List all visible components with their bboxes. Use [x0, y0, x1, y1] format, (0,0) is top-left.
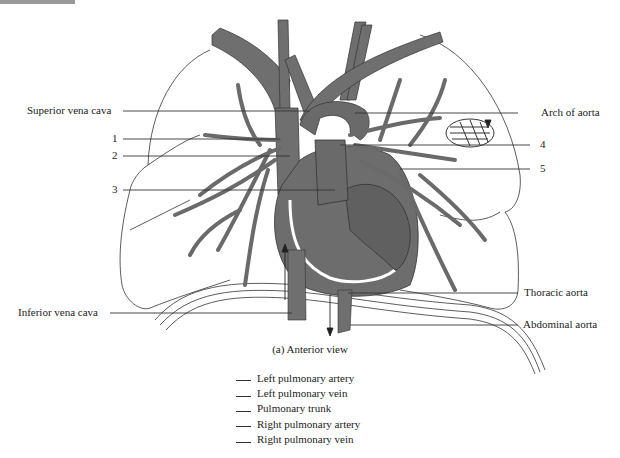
label-number-5: 5	[540, 162, 546, 175]
legend-item: Right pulmonary vein	[236, 432, 360, 447]
right-pulmonary-vessels	[175, 85, 280, 285]
answer-blank[interactable]	[236, 426, 251, 427]
label-thoracic-aorta: Thoracic aorta	[524, 286, 588, 299]
answer-blank[interactable]	[236, 380, 251, 381]
legend-item: Left pulmonary artery	[236, 370, 360, 385]
label-number-3: 3	[112, 183, 118, 196]
right-lung-outline	[120, 50, 230, 309]
label-arch-of-aorta: Arch of aorta	[541, 106, 600, 119]
pulmonary-trunk-vessel	[315, 140, 348, 205]
legend-text: Left pulmonary artery	[257, 372, 354, 384]
answer-blank[interactable]	[236, 411, 251, 412]
label-abdominal-aorta: Abdominal aorta	[523, 318, 597, 331]
legend-text: Left pulmonary vein	[257, 387, 347, 399]
legend-text: Right pulmonary artery	[257, 418, 360, 430]
label-number-2: 2	[112, 149, 118, 162]
label-number-4: 4	[540, 138, 546, 151]
label-inferior-vena-cava: Inferior vena cava	[18, 306, 98, 319]
descending-aorta-vessel	[338, 290, 352, 333]
legend-item: Right pulmonary artery	[236, 416, 360, 431]
figure-caption: (a) Anterior view	[0, 343, 620, 355]
answer-blank[interactable]	[236, 396, 251, 397]
inferior-vena-cava-vessel	[288, 250, 306, 320]
legend-text: Pulmonary trunk	[257, 402, 331, 414]
label-number-1: 1	[112, 132, 118, 145]
left-lung-outline	[400, 35, 520, 309]
answer-blank[interactable]	[236, 442, 251, 443]
legend-text: Right pulmonary vein	[257, 433, 354, 445]
label-superior-vena-cava: Superior vena cava	[27, 104, 111, 117]
capillary-bed	[446, 119, 494, 147]
answer-legend: Left pulmonary artery Left pulmonary vei…	[236, 370, 360, 447]
legend-item: Pulmonary trunk	[236, 401, 360, 416]
legend-item: Left pulmonary vein	[236, 385, 360, 400]
